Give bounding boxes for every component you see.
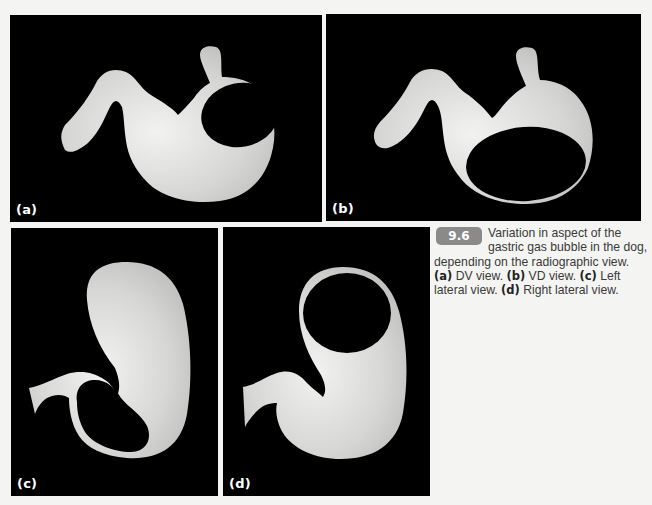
caption-label-d: (d)	[501, 283, 520, 297]
figure-panel-a-dv-view: (a)	[10, 15, 322, 222]
stomach-vd-illustration	[326, 14, 641, 221]
panel-label-d: (d)	[229, 476, 251, 491]
caption-text-b: VD view.	[525, 269, 579, 283]
caption-label-c: (c)	[579, 269, 596, 283]
stomach-dv-illustration	[10, 15, 322, 222]
figure-panel-b-vd-view: (b)	[326, 14, 641, 221]
caption-label-b: (b)	[506, 269, 525, 283]
figure-panel-c-left-lateral-view: (c)	[11, 228, 218, 496]
caption-text-a: DV view.	[452, 269, 506, 283]
panel-label-a: (a)	[16, 202, 37, 217]
figure-caption: 9.6 Variation in aspect of the gastric g…	[434, 226, 650, 297]
stomach-right-lateral-illustration	[223, 227, 430, 496]
figure-number-badge: 9.6	[436, 227, 482, 245]
stomach-left-lateral-illustration	[11, 228, 218, 496]
caption-label-a: (a)	[434, 269, 452, 283]
panel-label-c: (c)	[17, 476, 37, 491]
panel-label-b: (b)	[332, 201, 354, 216]
caption-text-d: Right lateral view.	[520, 283, 619, 297]
figure-panel-d-right-lateral-view: (d)	[223, 227, 430, 496]
